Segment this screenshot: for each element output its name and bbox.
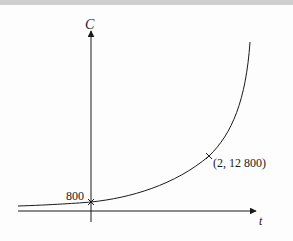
- c-axis-label: C: [85, 17, 95, 32]
- point-marker-icon: [206, 153, 212, 159]
- point-label: (2, 12 800): [213, 156, 266, 170]
- t-axis-label: t: [259, 214, 263, 228]
- exponential-curve: [18, 42, 250, 206]
- intercept-label: 800: [66, 189, 84, 203]
- exponential-growth-plot: C t 800 (2, 12 800): [0, 0, 293, 241]
- chart-figure: C t 800 (2, 12 800): [0, 0, 293, 241]
